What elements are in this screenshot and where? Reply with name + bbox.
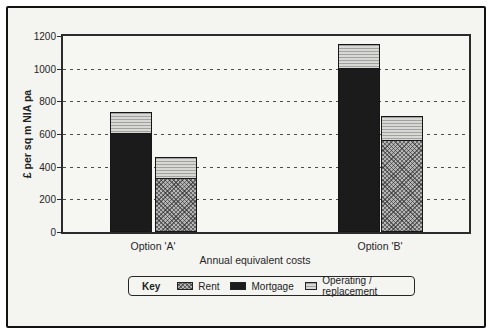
y-axis-title: £ per sq m NIA pa (21, 90, 33, 178)
y-tick-label-200: 200 (39, 194, 56, 205)
y-tick-mark-400 (57, 167, 62, 168)
y-tick-label-400: 400 (39, 161, 56, 172)
legend-label-operating: Operating / replacement (322, 275, 403, 297)
legend-label-mortgage: Mortgage (251, 281, 293, 292)
y-tick-label-1000: 1000 (34, 63, 56, 74)
y-tick-label-0: 0 (50, 227, 56, 238)
segment-rent (155, 178, 197, 232)
bar-option-a-rent (155, 158, 197, 232)
mortgage-swatch-icon (230, 282, 246, 290)
segment-operating-replacement (338, 44, 380, 69)
gridline-800 (63, 101, 469, 102)
figure: 020040060080010001200 £ per sq m NIA pa … (0, 0, 490, 333)
legend: Key Rent Mortgage Operating / replacemen… (128, 276, 415, 296)
segment-rent (381, 140, 423, 232)
y-tick-mark-1200 (57, 36, 62, 37)
gridline-1000 (63, 69, 469, 70)
y-tick-mark-1000 (57, 69, 62, 70)
segment-mortgage (338, 68, 380, 232)
segment-operating-replacement (155, 157, 197, 179)
y-tick-label-600: 600 (39, 129, 56, 140)
segment-mortgage (110, 133, 152, 232)
y-tick-mark-200 (57, 199, 62, 200)
segment-operating-replacement (381, 116, 423, 142)
y-tick-label-1200: 1200 (34, 31, 56, 42)
legend-item-rent: Rent (177, 281, 219, 292)
rent-swatch-icon (177, 282, 193, 290)
legend-title: Key (142, 281, 160, 292)
y-tick-label-800: 800 (39, 96, 56, 107)
legend-item-mortgage: Mortgage (230, 281, 293, 292)
bar-option-a-mortgage (110, 113, 152, 232)
bar-option-b-mortgage (338, 45, 380, 232)
operating-swatch-icon (305, 282, 318, 290)
bar-option-b-rent (381, 117, 423, 232)
y-tick-mark-800 (57, 101, 62, 102)
category-label-option-b: Option 'B' (358, 240, 403, 252)
y-tick-mark-600 (57, 134, 62, 135)
y-tick-mark-0 (57, 232, 62, 233)
legend-label-rent: Rent (198, 281, 219, 292)
legend-item-operating: Operating / replacement (305, 275, 403, 297)
category-label-option-a: Option 'A' (131, 240, 176, 252)
plot-area (61, 34, 471, 234)
x-axis-title: Annual equivalent costs (200, 254, 311, 266)
segment-operating-replacement (110, 112, 152, 134)
